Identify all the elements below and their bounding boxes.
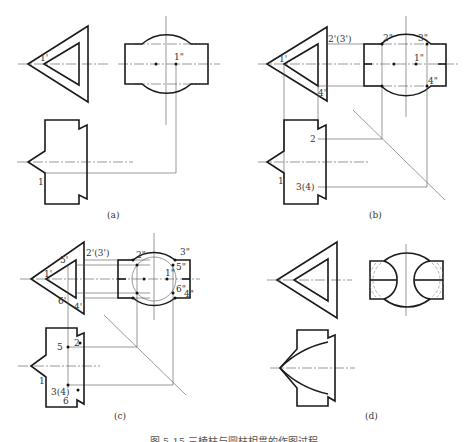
intersection-drawing-figure: 1' 1" 1 (a): [0, 0, 468, 442]
panel-a-front-view: 1': [18, 26, 110, 102]
label-2-double-prime: 2": [136, 250, 146, 260]
panel-a-side-view: 1": [118, 16, 220, 173]
panel-b-top-view: 2 1 3(4): [258, 110, 445, 204]
panel-b: 2'(3') 1' 4' 2" 3" 1" 4": [258, 16, 460, 220]
label-6: 6: [63, 396, 69, 406]
label-3-4: 3(4): [296, 182, 314, 192]
label-1: 1: [38, 177, 44, 187]
label-1-prime: 1': [279, 54, 287, 64]
label-2: 2: [74, 338, 80, 348]
figure-caption: 图 5-15 三棱柱与圆柱相贯的作图过程: [0, 433, 468, 442]
panel-c: 2'(3') 5' 1' 6' 4' 2" 3": [18, 233, 200, 421]
panel-d-side-view: [369, 244, 443, 316]
label-5: 5: [57, 342, 63, 352]
panel-d-front-view: [267, 242, 352, 318]
panel-b-label: (b): [369, 210, 382, 220]
label-2: 2: [310, 134, 316, 144]
panel-d-label: (d): [365, 411, 378, 421]
label-4-prime: 4': [74, 302, 82, 312]
label-2-prime-3-prime: 2'(3'): [328, 34, 351, 44]
panel-d: (d): [267, 242, 444, 421]
label-4-double-prime: 4": [184, 289, 194, 299]
label-4-double-prime: 4": [428, 76, 438, 86]
label-6-prime: 6': [58, 296, 66, 306]
label-1-double-prime: 1": [414, 53, 424, 63]
panel-d-top-view: [270, 330, 355, 406]
label-5-prime: 5': [60, 255, 68, 265]
label-1-prime: 1': [40, 53, 48, 63]
panel-a: 1' 1" 1 (a): [17, 16, 220, 220]
label-1-double-prime: 1": [174, 52, 184, 62]
panel-a-top-view: 1: [17, 120, 176, 204]
label-5-double-prime: 5": [176, 262, 186, 272]
panel-c-top-view: 5 2 1 3(4) 6: [18, 315, 186, 407]
label-2-prime-3-prime: 2'(3'): [86, 248, 109, 258]
label-4-prime: 4': [318, 88, 326, 98]
label-3-double-prime: 3": [180, 247, 190, 257]
label-1-prime: 1': [44, 269, 52, 279]
label-1-double-prime: 1": [165, 268, 175, 278]
panel-c-label: (c): [114, 411, 126, 421]
panel-b-side-view: 2" 3" 1" 4": [364, 16, 460, 187]
label-3-double-prime: 3": [418, 33, 428, 43]
panel-c-side-view: 2" 3" 1" 5" 6" 4": [116, 233, 200, 385]
label-1: 1: [278, 176, 284, 186]
panel-a-label: (a): [107, 210, 119, 220]
label-2-double-prime: 2": [383, 33, 393, 43]
label-1: 1: [39, 376, 45, 386]
